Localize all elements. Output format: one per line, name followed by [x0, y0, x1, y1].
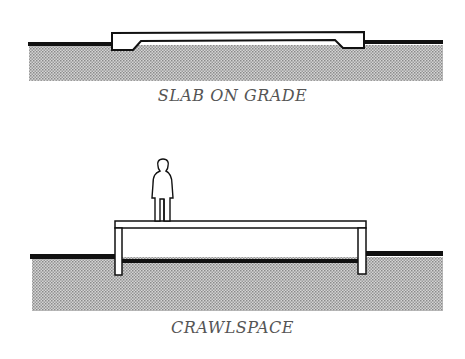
foundation-post-left	[115, 228, 122, 275]
foundation-post-right	[358, 228, 366, 274]
slab-on-grade-diagram	[28, 32, 443, 81]
ground-line-left	[30, 254, 116, 259]
foundation-diagram: SLAB ON GRADE CRAWLSPACE	[0, 0, 465, 359]
ground-line-left	[28, 42, 112, 46]
ground-line-right	[366, 251, 443, 256]
ground-line-right	[363, 40, 443, 44]
soil-hatch	[29, 45, 443, 81]
crawlspace-diagram	[30, 159, 443, 311]
ground-line-inside	[122, 259, 358, 263]
caption-crawlspace: CRAWLSPACE	[0, 318, 465, 337]
human-figure	[152, 159, 173, 221]
diagram-drawing	[0, 0, 465, 359]
floor-deck	[115, 221, 366, 228]
caption-slab-on-grade: SLAB ON GRADE	[0, 86, 465, 105]
soil-hatch	[32, 257, 443, 311]
